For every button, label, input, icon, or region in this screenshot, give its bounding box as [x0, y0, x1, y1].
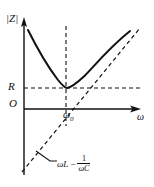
- asymptote-leader-line: [36, 151, 57, 161]
- reactance-asymptote-line: [22, 28, 140, 172]
- impedance-frequency-figure: |Z| R O ω0 ω ωL − 1 ωC: [0, 0, 154, 187]
- asymptote-formula-label: ωL − 1 ωC: [57, 155, 90, 173]
- formula-fraction: 1 ωC: [77, 155, 90, 173]
- x-axis-label: ω: [137, 112, 144, 122]
- formula-term-omega-l: ωL: [57, 160, 68, 169]
- resistance-label: R: [8, 81, 15, 92]
- formula-numerator: 1: [81, 155, 87, 163]
- origin-label: O: [9, 98, 17, 109]
- x-axis: [24, 106, 141, 113]
- resonance-frequency-label: ω0: [63, 110, 74, 123]
- formula-denominator: ωC: [77, 165, 90, 173]
- resonance-subscript: 0: [70, 115, 74, 123]
- resonance-omega-glyph: ω: [63, 109, 70, 120]
- y-axis: [21, 17, 27, 175]
- y-axis-label: |Z|: [6, 13, 18, 24]
- formula-minus-sign: −: [70, 160, 76, 169]
